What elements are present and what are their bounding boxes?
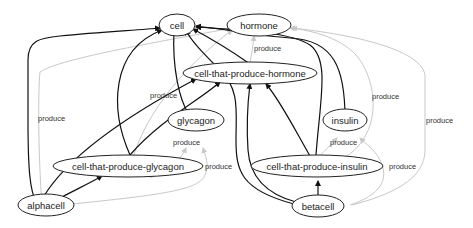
node-betacell[interactable]: betacell <box>292 195 344 217</box>
edge-glycagon-cell-hormone <box>130 30 232 170</box>
node-hormone[interactable]: hormone <box>227 14 291 36</box>
svg-text:glycagon: glycagon <box>177 115 215 126</box>
svg-text:cell-that-produce-hormone: cell-that-produce-hormone <box>194 68 305 79</box>
node-alphacell[interactable]: alphacell <box>18 194 74 216</box>
edge-label: produce <box>150 91 177 100</box>
node-glycagon[interactable]: glycagon <box>168 109 224 131</box>
svg-text:cell: cell <box>170 20 184 31</box>
svg-text:betacell: betacell <box>302 201 335 212</box>
svg-text:insulin: insulin <box>332 115 359 126</box>
node-cell-that-produce-insulin[interactable]: cell-that-produce-insulin <box>251 155 383 177</box>
svg-text:cell-that-produce-glycagon: cell-that-produce-glycagon <box>72 161 184 172</box>
edge-label: produce <box>389 162 416 171</box>
node-cell-that-produce-hormone[interactable]: cell-that-produce-hormone <box>183 62 317 84</box>
edge-betacell-cph <box>247 84 296 202</box>
edge-label: produce <box>330 138 357 147</box>
node-cell-that-produce-glycagon[interactable]: cell-that-produce-glycagon <box>53 155 203 177</box>
edge-label: produce <box>38 114 65 123</box>
edge-label: produce <box>254 44 281 53</box>
svg-text:hormone: hormone <box>240 20 278 31</box>
edge-label: produce <box>426 116 453 125</box>
edge-label: produce <box>372 92 399 101</box>
node-cell[interactable]: cell <box>159 14 195 36</box>
svg-text:cell-that-produce-insulin: cell-that-produce-insulin <box>267 161 368 172</box>
edge-alphacell-cpg <box>62 176 102 197</box>
edge-cpi-cph <box>266 84 310 156</box>
edge-label: produce <box>173 138 200 147</box>
edge-label: produce <box>205 162 232 171</box>
node-insulin[interactable]: insulin <box>323 109 367 131</box>
svg-text:alphacell: alphacell <box>27 200 65 211</box>
diagram-canvas: produce produce produce produce produce … <box>0 0 473 228</box>
